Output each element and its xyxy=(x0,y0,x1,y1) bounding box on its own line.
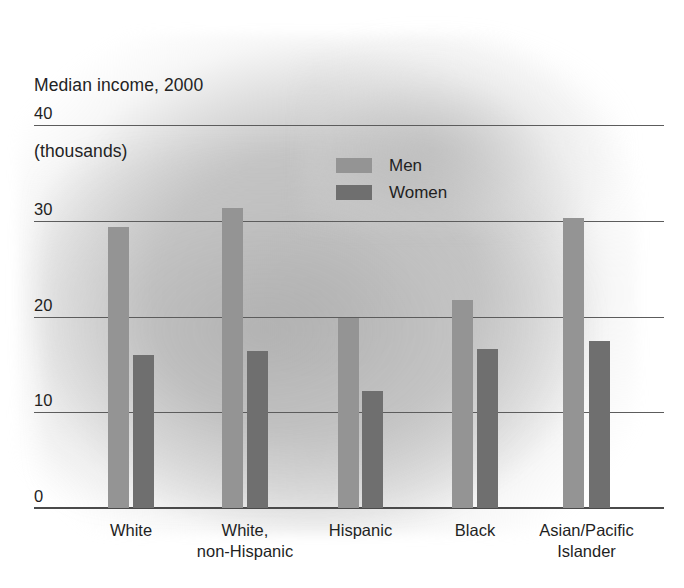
bar-men-2 xyxy=(338,318,359,508)
bars-layer xyxy=(0,0,684,508)
legend-item-women: Women xyxy=(336,179,447,206)
bar-men-4 xyxy=(563,218,584,508)
bar-men-0 xyxy=(108,227,129,508)
bar-women-3 xyxy=(477,349,498,508)
x-axis-label-4: Asian/Pacific Islander xyxy=(507,520,667,562)
chart-legend: MenWomen xyxy=(336,152,447,206)
plot-area: 010203040 WhiteWhite, non-HispanicHispan… xyxy=(0,0,684,588)
legend-label-men: Men xyxy=(389,156,422,175)
bar-women-1 xyxy=(247,351,268,508)
legend-swatch-men xyxy=(336,158,372,173)
bar-men-1 xyxy=(222,208,243,508)
bar-women-2 xyxy=(362,391,383,508)
bar-women-0 xyxy=(133,355,154,508)
bar-women-4 xyxy=(589,341,610,508)
bar-men-3 xyxy=(452,300,473,508)
chart-figure: Median income, 2000 (thousands) 01020304… xyxy=(0,0,684,588)
legend-swatch-women xyxy=(336,185,372,200)
legend-item-men: Men xyxy=(336,152,447,179)
legend-label-women: Women xyxy=(389,183,447,202)
